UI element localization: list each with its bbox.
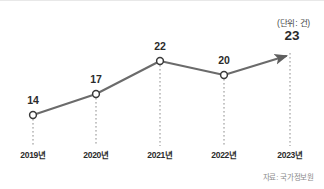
x-axis-label-2022: 2022년 xyxy=(211,151,236,160)
unit-note: (단위: 건) xyxy=(277,16,310,28)
data-point-markers xyxy=(30,58,228,119)
data-point-marker-icon xyxy=(221,72,228,79)
value-label-2023: 23 xyxy=(284,29,299,43)
data-point-marker-icon xyxy=(157,58,164,65)
line-chart-figure: (단위: 건) 14 17 22 20 23 2019년 2020년 2021년… xyxy=(0,0,324,189)
value-label-2019: 14 xyxy=(27,95,39,106)
data-point-marker-icon xyxy=(93,91,100,98)
x-axis-label-2019: 2019년 xyxy=(20,151,45,160)
x-axis-label-2021: 2021년 xyxy=(147,151,172,160)
value-label-2020: 17 xyxy=(90,74,102,85)
data-point-marker-icon xyxy=(30,112,37,119)
chart-plot-area xyxy=(0,1,324,189)
x-axis-label-2023: 2023년 xyxy=(277,151,302,160)
value-label-2021: 22 xyxy=(154,41,166,52)
value-label-2022: 20 xyxy=(218,55,230,66)
x-axis-label-2020: 2020년 xyxy=(83,151,108,160)
source-note: 자료: 국가정보원 xyxy=(263,171,314,182)
